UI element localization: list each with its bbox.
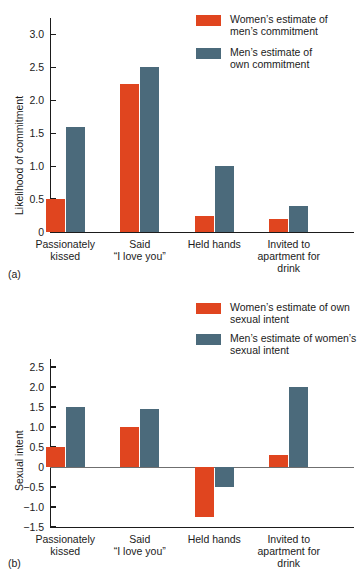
y-axis-tick-label: 1.5 [10,128,44,139]
bar-men [289,206,308,232]
legend-item-women-a: Women’s estimate of men’s commitment [196,14,328,37]
bar-women [269,455,288,467]
legend-label-men: Men’s estimate of own commitment [230,47,312,70]
bar-women [46,447,65,467]
legend-swatch-women-icon [196,15,221,26]
y-axis-tick [51,366,56,367]
legend-label-women: Women’s estimate of men’s commitment [230,14,328,37]
y-axis-tick [51,426,56,427]
y-axis-tick-label: 3.0 [10,29,44,40]
bar-men [215,166,234,232]
bar-men [215,467,234,487]
panel-caption-a: (a) [8,268,21,280]
y-axis-tick-label: 2.0 [10,95,44,106]
bar-men [140,409,159,467]
y-axis-tick [51,506,56,507]
bar-women [269,219,288,232]
panel-caption-b: (b) [8,557,21,569]
y-axis-tick-label: −1.5 [10,522,44,533]
x-axis-line [50,232,354,233]
bar-women [195,467,214,517]
y-axis-tick-label: 0.5 [10,442,44,453]
legend-item-men-a: Men’s estimate of own commitment [196,47,312,70]
y-axis-tick-label: 1.0 [10,161,44,172]
y-axis-tick [51,166,56,167]
y-axis-tick-label: 2.5 [10,62,44,73]
y-axis-tick-label: 1.5 [10,402,44,413]
bar-women [120,427,139,467]
chart-panel-b: Sexual intent −1.5−1.0−0.500.51.01.52.02… [0,292,364,585]
bar-men [289,387,308,467]
legend-swatch-men-icon [196,334,221,345]
y-axis-tick-label: 2.0 [10,382,44,393]
y-axis-tick-label: 0 [10,462,44,473]
y-axis-tick [51,386,56,387]
y-axis-tick [51,486,56,487]
bar-women [120,84,139,232]
y-axis-tick-label: −1.0 [10,502,44,513]
y-axis-tick [51,67,56,68]
plot-area-b: −1.5−1.0−0.500.51.01.52.02.5Passionately… [50,359,348,527]
legend-swatch-women-icon [196,303,221,314]
chart-panel-a: Likelihood of commitment 00.51.01.52.02.… [0,0,364,292]
y-axis-tick-label: 0.5 [10,194,44,205]
y-axis-tick-label: 0 [10,227,44,238]
x-axis-category-label: Invited to apartment for drink [241,238,338,275]
legend-item-men-b: Men’s estimate of women’s sexual intent [196,333,356,356]
y-axis-tick-label: 1.0 [10,422,44,433]
bar-men [66,407,85,467]
bar-men [66,127,85,232]
bar-women [46,199,65,232]
y-axis-tick [51,133,56,134]
bar-men [140,67,159,232]
legend-item-women-b: Women’s estimate of own sexual intent [196,302,350,325]
legend-swatch-men-icon [196,48,221,59]
y-axis-tick [51,526,56,527]
y-axis-line [50,359,51,527]
legend-label-men: Men’s estimate of women’s sexual intent [230,333,356,356]
y-axis-tick [51,406,56,407]
y-axis-tick-label: 2.5 [10,362,44,373]
x-axis-line [50,527,354,528]
legend-label-women: Women’s estimate of own sexual intent [230,302,350,325]
y-axis-tick-label: −0.5 [10,482,44,493]
x-axis-category-label: Invited to apartment for drink [241,533,338,570]
bar-women [195,216,214,232]
y-axis-tick [51,34,56,35]
y-axis-tick [51,100,56,101]
